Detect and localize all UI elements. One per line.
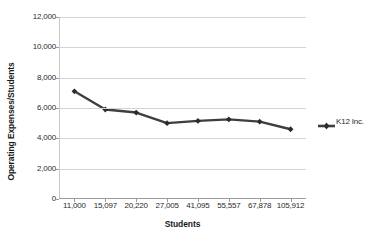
y-tick-label: 8,000: [24, 74, 56, 82]
x-tick-label: 15,097: [94, 202, 117, 210]
x-tick-label: 105,912: [277, 202, 305, 210]
data-point-marker: [257, 119, 263, 125]
data-point-marker: [226, 116, 232, 122]
legend-marker-icon: [318, 117, 335, 127]
y-tick-label: 4,000: [24, 134, 56, 142]
x-tick-label: 55,557: [217, 202, 240, 210]
y-tick-label: 2,000: [24, 165, 56, 173]
y-tick-label: 10,000: [24, 43, 56, 51]
x-tick-label: 27,005: [155, 202, 178, 210]
y-tick-mark: [56, 78, 59, 79]
y-tick-mark: [56, 108, 59, 109]
x-axis-tick-labels: 11,00015,09720,22027,00541,09555,55767,8…: [59, 202, 306, 216]
y-tick-mark: [56, 138, 59, 139]
y-tick-mark: [56, 169, 59, 170]
x-axis-title: Students: [59, 219, 306, 229]
x-tick-label: 20,220: [125, 202, 148, 210]
data-point-marker: [195, 118, 201, 124]
gridline: [59, 47, 306, 48]
y-tick-label: 6,000: [24, 104, 56, 112]
gridline: [59, 108, 306, 109]
x-tick-label: 41,095: [186, 202, 209, 210]
y-axis-title: Operating Expenses/Students: [0, 0, 22, 243]
gridline: [59, 169, 306, 170]
y-axis-tick-labels: 02,0004,0006,0008,00010,00012,000: [22, 0, 56, 243]
line-chart: Operating Expenses/Students 02,0004,0006…: [0, 0, 387, 243]
data-point-marker: [164, 120, 170, 126]
y-tick-mark: [56, 17, 59, 18]
chart-legend: K12 Inc.: [318, 116, 364, 128]
data-point-marker: [133, 110, 139, 116]
y-tick-label: 0: [24, 195, 56, 203]
y-tick-label: 12,000: [24, 13, 56, 21]
x-tick-label: 67,878: [248, 202, 271, 210]
y-tick-mark: [56, 47, 59, 48]
y-tick-mark: [56, 199, 59, 200]
legend-entry-label: K12 Inc.: [336, 118, 364, 126]
gridline: [59, 17, 306, 18]
x-tick-label: 11,000: [63, 202, 86, 210]
gridline: [59, 78, 306, 79]
plot-area: [59, 17, 306, 199]
data-point-marker: [288, 126, 294, 132]
gridline: [59, 138, 306, 139]
